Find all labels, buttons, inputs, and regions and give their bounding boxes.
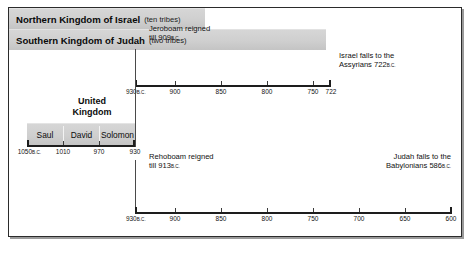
- israel-tick-label-900: 900: [170, 88, 181, 95]
- israel-tick-label-722: 722: [326, 88, 337, 95]
- judah-tick-label-650: 650: [400, 215, 411, 222]
- israel-tick-750: [313, 81, 314, 85]
- israel-axis-line: [135, 85, 331, 87]
- united-kingdom-heading-line1: United: [49, 96, 135, 107]
- israel-falls-note: Israel falls to the Assyrians 722B.C.: [339, 51, 396, 71]
- judah-tick-end: [450, 207, 452, 212]
- judah-axis-line: [135, 212, 452, 214]
- rehoboam-note: Rehoboam reigned till 913B.C.: [149, 152, 214, 172]
- judah-tick-800: [267, 208, 268, 212]
- reign-solomon: Solomon: [100, 124, 135, 145]
- israel-tick-800: [267, 81, 268, 85]
- connector-930bc-lower: [135, 160, 136, 212]
- israel-tick-label-800: 800: [262, 88, 273, 95]
- united-kingdom-heading: United Kingdom: [49, 96, 135, 118]
- judah-tick-label-750: 750: [308, 215, 319, 222]
- southern-kingdom-title: Southern Kingdom of Judah: [16, 35, 145, 46]
- united-kingdom-axis-line: [27, 145, 135, 147]
- reign-saul: Saul: [27, 124, 63, 145]
- judah-tick-750: [313, 208, 314, 212]
- judah-tick-700: [359, 208, 360, 212]
- uk-tick-label-1010: 1010: [56, 148, 70, 155]
- judah-tick-label-850: 850: [216, 215, 227, 222]
- judah-tick-850: [221, 208, 222, 212]
- judah-falls-note-line2: Babylonians 586B.C.: [386, 161, 451, 171]
- jeroboam-note-line2: till 909B.C.: [149, 33, 210, 43]
- judah-falls-note-line1: Judah falls to the: [386, 152, 451, 161]
- israel-tick-end: [329, 80, 331, 85]
- judah-tick-start: [135, 207, 137, 212]
- united-kingdom-heading-line2: Kingdom: [49, 107, 135, 118]
- rehoboam-note-line2: till 913B.C.: [149, 161, 214, 171]
- uk-tick-label-1050: 1050B.C.: [18, 148, 41, 155]
- israel-tick-900: [175, 81, 176, 85]
- rehoboam-note-line1: Rehoboam reigned: [149, 152, 214, 161]
- judah-falls-note: Judah falls to the Babylonians 586B.C.: [386, 152, 451, 172]
- reign-david: David: [64, 124, 99, 145]
- uk-tick-label-930: 930: [130, 148, 141, 155]
- era-suffix: B.C.: [171, 36, 180, 41]
- judah-tick-label-800: 800: [262, 215, 273, 222]
- uk-tick-970: [99, 141, 100, 145]
- uk-tick-label-970: 970: [94, 148, 105, 155]
- united-kingdom-bar: Saul David Solomon: [27, 123, 135, 145]
- israel-falls-note-line1: Israel falls to the: [339, 51, 396, 60]
- northern-kingdom-title: Northern Kingdom of Israel: [16, 14, 140, 25]
- judah-tick-label-930: 930B.C.: [126, 215, 146, 222]
- israel-tick-label-850: 850: [216, 88, 227, 95]
- israel-tick-850: [221, 81, 222, 85]
- judah-tick-900: [175, 208, 176, 212]
- judah-tick-label-700: 700: [354, 215, 365, 222]
- northern-kingdom-subtitle: (ten tribes): [144, 15, 180, 24]
- uk-tick-start: [27, 140, 29, 145]
- uk-tick-1010: [63, 141, 64, 145]
- connector-930bc: [135, 49, 136, 147]
- judah-tick-650: [405, 208, 406, 212]
- timeline-figure: Jeroboam reigned till 909B.C. Northern K…: [8, 7, 462, 237]
- israel-tick-label-750: 750: [308, 88, 319, 95]
- judah-tick-label-600: 600: [446, 215, 457, 222]
- jeroboam-note: Jeroboam reigned till 909B.C.: [149, 24, 210, 44]
- judah-tick-label-900: 900: [170, 215, 181, 222]
- israel-falls-note-line2: Assyrians 722B.C.: [339, 60, 396, 70]
- jeroboam-note-line1: Jeroboam reigned: [149, 24, 210, 33]
